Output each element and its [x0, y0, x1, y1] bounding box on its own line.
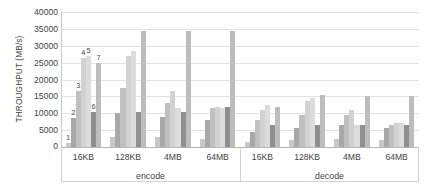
bar — [275, 107, 280, 148]
y-tick-30000: 30000 — [34, 42, 58, 51]
bar-group — [240, 12, 285, 147]
x-axis-category-labels: 16KB128KB4MB64MB16KB128KB4MB64MB — [61, 149, 419, 165]
bar-group — [151, 12, 196, 147]
bar — [141, 31, 146, 147]
bar-series-label: 7 — [97, 54, 101, 62]
bar-chart: THROUGHPUT (MB/s) 40000 35000 30000 2500… — [0, 0, 427, 195]
bar — [230, 31, 235, 147]
y-tick-5000: 5000 — [39, 126, 58, 135]
bar-group: 1234567 — [61, 12, 106, 147]
x-axis-category-label: 16KB — [61, 149, 106, 165]
bar-groups: 1234567 — [61, 12, 419, 147]
bar-series-label: 1 — [66, 134, 70, 142]
bar — [320, 95, 325, 147]
bar-group — [285, 12, 330, 147]
x-axis-category-label: 64MB — [195, 149, 240, 165]
x-axis-category-label: 4MB — [151, 149, 196, 165]
plot-area: 1234567 — [61, 12, 419, 147]
x-axis-category-label: 64MB — [374, 149, 419, 165]
bar: 7 — [96, 63, 101, 147]
x-axis-category-label: 128KB — [106, 149, 151, 165]
y-tick-0: 0 — [53, 142, 58, 151]
bar-series-label: 4 — [81, 49, 85, 57]
y-tick-15000: 15000 — [34, 92, 58, 101]
group-label-encode: encode — [61, 168, 240, 184]
bar — [186, 31, 191, 147]
bar — [409, 96, 414, 147]
x-axis-category-label: 4MB — [330, 149, 375, 165]
bar — [365, 96, 370, 147]
y-axis-tick-labels: 40000 35000 30000 25000 20000 15000 1000… — [18, 0, 58, 195]
bar-series-label: 6 — [92, 103, 96, 111]
y-tick-40000: 40000 — [34, 8, 58, 17]
y-tick-10000: 10000 — [34, 109, 58, 118]
bar-group — [106, 12, 151, 147]
bar-series-label: 2 — [71, 109, 75, 117]
x-axis-category-label: 128KB — [285, 149, 330, 165]
y-tick-20000: 20000 — [34, 76, 58, 85]
bar-group — [374, 12, 419, 147]
x-axis-category-label: 16KB — [240, 149, 285, 165]
group-label-decode: decode — [240, 168, 419, 184]
bar-series-label: 5 — [86, 47, 90, 55]
y-tick-35000: 35000 — [34, 25, 58, 34]
bar-series-label: 3 — [76, 82, 80, 90]
bar-group — [195, 12, 240, 147]
x-axis-group-labels: encode decode — [61, 168, 419, 184]
y-tick-25000: 25000 — [34, 59, 58, 68]
bar-group — [330, 12, 375, 147]
